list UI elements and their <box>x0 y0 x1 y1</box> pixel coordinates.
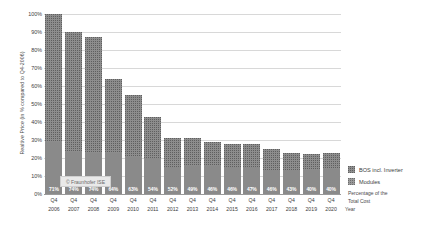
bar-column[interactable]: 40% <box>301 14 321 194</box>
legend-label: BOS incl. Inverter <box>359 167 403 173</box>
bar-segment-modules <box>184 138 201 165</box>
bar-column[interactable]: 54% <box>143 14 163 194</box>
bar-value-label: 47% <box>243 186 260 192</box>
x-tick-year: 2007 <box>64 205 84 214</box>
x-tick-quarter: Q4 <box>222 196 242 205</box>
watermark-label: © Fraunhofer ISE <box>60 176 111 187</box>
x-tick-label: Q42006 <box>44 196 64 214</box>
stacked-bar[interactable]: 49% <box>184 138 201 194</box>
bar-segment-modules <box>45 14 62 142</box>
stacked-bar[interactable]: 52% <box>164 138 181 194</box>
bar-segment-modules <box>224 144 241 167</box>
stacked-bar[interactable]: 46% <box>204 142 221 194</box>
bar-value-label: 52% <box>164 186 181 192</box>
x-tick-label: Q42020 <box>321 196 341 214</box>
y-tick-label: 90% <box>16 29 42 35</box>
x-axis-tick-labels: Q42006Q42007Q42008Q42009Q42010Q42011Q420… <box>44 196 341 214</box>
x-tick-year: 2018 <box>282 205 302 214</box>
bar-segment-modules <box>85 37 102 153</box>
bar-column[interactable]: 71% <box>44 14 64 194</box>
y-tick-label: 60% <box>16 83 42 89</box>
x-axis-title: Year <box>345 206 355 212</box>
x-tick-quarter: Q4 <box>64 196 84 205</box>
bar-segment-modules <box>164 138 181 167</box>
stacked-bar[interactable]: 46% <box>263 149 280 194</box>
stacked-bar[interactable]: 54% <box>144 117 161 194</box>
y-tick-label: 50% <box>16 101 42 107</box>
x-tick-year: 2014 <box>202 205 222 214</box>
x-tick-label: Q42019 <box>301 196 321 214</box>
stacked-bar[interactable]: 43% <box>283 153 300 194</box>
x-tick-label: Q42009 <box>103 196 123 214</box>
x-tick-label: Q42018 <box>282 196 302 214</box>
bar-column[interactable]: 43% <box>282 14 302 194</box>
bar-segment-modules <box>144 117 161 159</box>
x-tick-year: 2017 <box>262 205 282 214</box>
x-tick-year: 2020 <box>321 205 341 214</box>
y-tick-label: 80% <box>16 47 42 53</box>
y-tick-label: 0% <box>16 191 42 197</box>
y-tick-label: 70% <box>16 65 42 71</box>
bar-segment-modules <box>323 153 340 170</box>
bar-value-label: 43% <box>283 186 300 192</box>
bar-value-label: 46% <box>204 186 221 192</box>
bar-segment-modules <box>263 149 280 170</box>
bar-column[interactable]: 63% <box>123 14 143 194</box>
x-tick-quarter: Q4 <box>103 196 123 205</box>
stacked-bar[interactable]: 71% <box>45 14 62 194</box>
stacked-bar[interactable]: 40% <box>323 153 340 194</box>
bar-segment-modules <box>243 144 260 168</box>
x-tick-year: 2012 <box>163 205 183 214</box>
stacked-bar[interactable]: 47% <box>243 144 260 194</box>
x-tick-quarter: Q4 <box>44 196 64 205</box>
bar-segment-modules <box>125 95 142 157</box>
bar-column[interactable]: 74% <box>84 14 104 194</box>
legend-swatch-modules-icon <box>348 178 355 185</box>
x-tick-label: Q42013 <box>183 196 203 214</box>
bar-column[interactable]: 49% <box>183 14 203 194</box>
x-tick-quarter: Q4 <box>301 196 321 205</box>
bar-column[interactable]: 52% <box>163 14 183 194</box>
legend-item: BOS incl. Inverter <box>348 166 428 173</box>
x-tick-label: Q42008 <box>84 196 104 214</box>
legend-caption-line-2: Total Cost <box>348 198 428 205</box>
y-axis-tick-labels: 100%90%80%70%60%50%40%30%20%10%0% <box>14 14 42 194</box>
gridline <box>44 194 341 195</box>
x-tick-label: Q42014 <box>202 196 222 214</box>
x-tick-year: 2016 <box>242 205 262 214</box>
x-tick-quarter: Q4 <box>143 196 163 205</box>
bar-value-label: 49% <box>184 186 201 192</box>
x-tick-year: 2006 <box>44 205 64 214</box>
y-tick-label: 40% <box>16 119 42 125</box>
bar-value-label: 63% <box>125 186 142 192</box>
x-tick-quarter: Q4 <box>163 196 183 205</box>
bar-column[interactable]: 46% <box>262 14 282 194</box>
plot-area: 71%74%74%64%63%54%52%49%46%46%47%46%43%4… <box>44 14 341 194</box>
x-tick-label: Q42017 <box>262 196 282 214</box>
stacked-bar[interactable]: 74% <box>85 37 102 194</box>
x-tick-quarter: Q4 <box>242 196 262 205</box>
bar-value-label: 46% <box>263 186 280 192</box>
x-tick-quarter: Q4 <box>282 196 302 205</box>
bar-column[interactable]: 40% <box>321 14 341 194</box>
chart-page: Realtive Price (in % compared to Q4-2006… <box>0 0 429 242</box>
stacked-bar[interactable]: 63% <box>125 95 142 194</box>
bar-column[interactable]: 46% <box>222 14 242 194</box>
bar-column[interactable]: 64% <box>103 14 123 194</box>
bar-value-label: 46% <box>224 186 241 192</box>
stacked-bar[interactable]: 74% <box>65 32 82 194</box>
x-tick-quarter: Q4 <box>262 196 282 205</box>
stacked-bar[interactable]: 46% <box>224 144 241 194</box>
bar-segment-modules <box>65 32 82 152</box>
bar-segment-modules <box>105 79 122 153</box>
bar-column[interactable]: 47% <box>242 14 262 194</box>
x-tick-year: 2015 <box>222 205 242 214</box>
x-tick-quarter: Q4 <box>183 196 203 205</box>
bar-column[interactable]: 46% <box>202 14 222 194</box>
x-tick-year: 2010 <box>123 205 143 214</box>
stacked-bar[interactable]: 40% <box>303 154 320 194</box>
x-tick-quarter: Q4 <box>123 196 143 205</box>
x-tick-label: Q42010 <box>123 196 143 214</box>
bar-column[interactable]: 74% <box>64 14 84 194</box>
y-tick-label: 20% <box>16 155 42 161</box>
